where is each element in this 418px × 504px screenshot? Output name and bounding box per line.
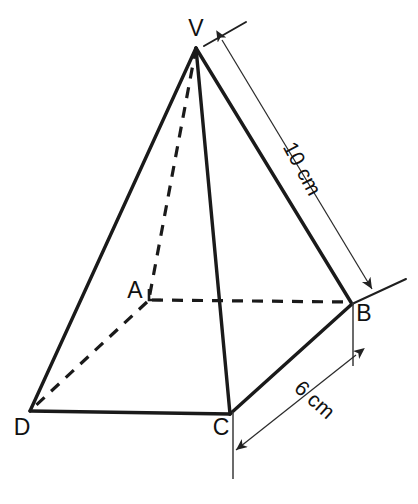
vertex-label-a: A bbox=[127, 277, 143, 303]
dimension-10cm-extension-at-v bbox=[204, 22, 246, 46]
dimension-10cm: 10 cm bbox=[204, 22, 406, 304]
dimension-6cm-line bbox=[236, 355, 356, 450]
solid-edges-group bbox=[30, 48, 352, 414]
edge-A-B bbox=[152, 300, 349, 302]
edge-V-D bbox=[30, 48, 196, 411]
pyramid-figure: 10 cm 6 cm V A B C D bbox=[0, 0, 418, 504]
vertex-label-b: B bbox=[356, 300, 371, 326]
dimension-6cm: 6 cm bbox=[233, 302, 356, 479]
vertex-label-d: D bbox=[14, 414, 31, 440]
edge-V-A bbox=[149, 48, 196, 299]
dimension-10cm-label: 10 cm bbox=[279, 138, 326, 199]
dimension-6cm-label: 6 cm bbox=[290, 376, 339, 424]
edge-V-C bbox=[196, 48, 230, 414]
edge-A-D bbox=[32, 302, 147, 409]
hidden-edges-group bbox=[32, 48, 349, 409]
vertex-label-c: C bbox=[213, 414, 230, 440]
edge-V-B bbox=[196, 48, 352, 304]
edge-C-B bbox=[230, 304, 352, 414]
pyramid-diagram-canvas: 10 cm 6 cm V A B C D bbox=[0, 0, 418, 504]
edge-D-C bbox=[30, 411, 230, 414]
vertex-label-v: V bbox=[188, 15, 204, 41]
